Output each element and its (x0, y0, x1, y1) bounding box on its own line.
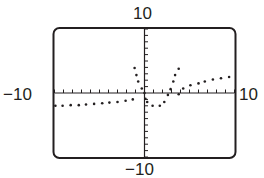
data-point (116, 101, 119, 104)
data-point (159, 105, 162, 108)
data-point (61, 105, 64, 108)
xmin-label: −10 (3, 86, 32, 103)
data-point (69, 104, 72, 107)
data-point (163, 101, 166, 104)
data-point (78, 104, 81, 107)
data-point (137, 80, 140, 83)
data-point (85, 103, 88, 106)
data-point (177, 67, 180, 70)
data-point (189, 84, 192, 87)
data-point (143, 92, 146, 95)
data-point (54, 105, 57, 108)
data-point (177, 93, 180, 96)
data-point (172, 80, 175, 83)
data-point (167, 94, 170, 97)
data-point (124, 99, 127, 102)
data-point (182, 87, 185, 90)
data-point (220, 77, 223, 80)
data-point (141, 87, 144, 90)
data-point (228, 76, 231, 79)
data-point (174, 74, 177, 77)
ymin-label: −10 (125, 161, 154, 178)
data-point (212, 78, 215, 81)
data-point (133, 67, 136, 70)
data-point (132, 98, 135, 101)
data-point (169, 88, 172, 91)
data-point (146, 101, 149, 104)
data-point (151, 105, 154, 108)
data-point (108, 101, 111, 104)
data-point (93, 103, 96, 106)
graphing-calculator-screen (0, 0, 264, 178)
data-point (197, 82, 200, 85)
data-point (101, 102, 104, 105)
ymax-label: 10 (133, 5, 152, 22)
data-point (144, 97, 147, 100)
data-point (135, 74, 138, 77)
data-point (204, 80, 207, 83)
xmax-label: 10 (239, 86, 258, 103)
